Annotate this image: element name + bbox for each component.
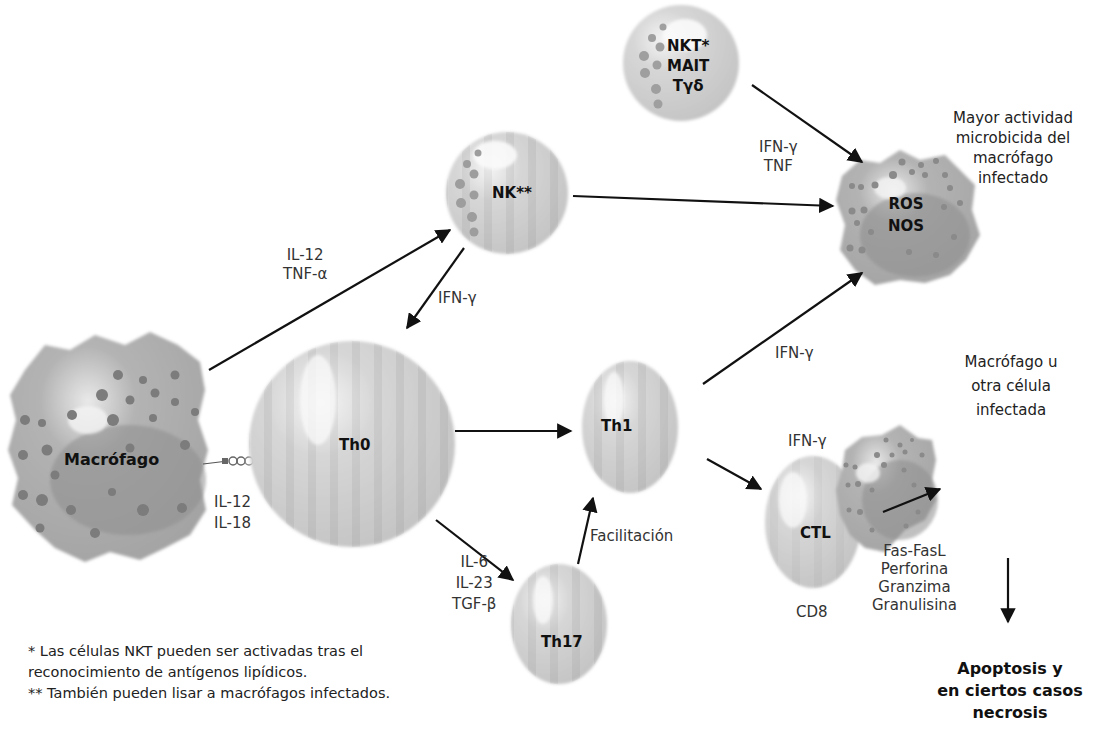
mediator-granzyme: Granzima bbox=[872, 578, 957, 596]
outcome-line: necrosis bbox=[930, 702, 1090, 724]
mediator-perforin: Perforina bbox=[872, 560, 957, 578]
footnote-nk: ** También pueden lisar a macrófagos inf… bbox=[28, 683, 390, 704]
th1-label-text: Th1 bbox=[601, 417, 632, 436]
nk-label: NK** bbox=[492, 184, 532, 203]
th17-cell bbox=[511, 564, 607, 684]
label-facilitation: Facilitación bbox=[590, 527, 673, 546]
outcome-line: otra célula bbox=[946, 374, 1076, 398]
mait-line: MAIT bbox=[667, 56, 709, 76]
outcome-line: Macrófago u bbox=[946, 350, 1076, 374]
footnotes: * Las células NKT pueden ser activadas t… bbox=[28, 641, 390, 704]
nos-line: NOS bbox=[888, 215, 924, 237]
outcome-line: infectada bbox=[946, 398, 1076, 422]
mediator-il6: IL-6 bbox=[452, 552, 496, 573]
synapse-receptor-icon bbox=[203, 457, 253, 465]
macrophage-label-text: Macrófago bbox=[64, 450, 159, 469]
mediators-ctl-to-infected: Fas-FasL Perforina Granzima Granulisina bbox=[872, 542, 957, 614]
mediator-ifn-gamma: IFN-γ bbox=[788, 432, 827, 451]
tgd-line: Tγδ bbox=[667, 76, 709, 96]
ctl-label: CTL bbox=[800, 524, 831, 543]
outcome-line: Apoptosis y bbox=[930, 658, 1090, 680]
ros-line: ROS bbox=[888, 193, 924, 215]
arrow-nk-to-th0 bbox=[407, 248, 464, 328]
mediator-il12: IL-12 bbox=[214, 492, 251, 513]
mediator-ifn-gamma: IFN-γ bbox=[438, 289, 477, 308]
ctl-cd8-label: CD8 bbox=[796, 603, 828, 622]
mediator-il23: IL-23 bbox=[452, 573, 496, 594]
immune-response-diagram: Macrófago Th0 NK** NKT* MAIT Tγδ ROS NOS… bbox=[0, 0, 1093, 730]
ros-nos-label: ROS NOS bbox=[888, 193, 924, 237]
outcome-line: macrófago bbox=[938, 148, 1088, 168]
mediator-ifn-gamma: IFN-γ bbox=[775, 344, 814, 363]
mediators-macrophage-to-nk: IL-12 TNF-α bbox=[283, 246, 327, 284]
macrophage-label: Macrófago bbox=[64, 450, 159, 469]
th0-label: Th0 bbox=[339, 436, 370, 455]
outcome-line: infectado bbox=[938, 168, 1088, 188]
infected-target-cell bbox=[836, 425, 938, 552]
th1-label: Th1 bbox=[601, 417, 632, 436]
mediator-fas-fasl: Fas-FasL bbox=[872, 542, 957, 560]
ctl-label-text: CTL bbox=[800, 524, 831, 543]
mediators-th1-to-macrophage: IFN-γ bbox=[775, 344, 814, 363]
footnote-nkt-continued: reconocimiento de antígenos lipídicos. bbox=[28, 662, 390, 683]
outcome-line: en ciertos casos bbox=[930, 680, 1090, 702]
outcome-line: Mayor actividad bbox=[938, 108, 1088, 128]
mediator-il18: IL-18 bbox=[214, 513, 251, 534]
th17-label-text: Th17 bbox=[541, 633, 583, 652]
outcome-microbicidal-activity: Mayor actividad microbicida del macrófag… bbox=[938, 108, 1088, 188]
facilitation-text: Facilitación bbox=[590, 527, 673, 546]
arrow-th1-to-activated-macrophage bbox=[703, 273, 862, 384]
nkt-mait-tgd-label: NKT* MAIT Tγδ bbox=[667, 36, 709, 96]
cd8-text: CD8 bbox=[796, 603, 828, 622]
mediators-nk-to-th0: IFN-γ bbox=[438, 289, 477, 308]
mediators-nkt-to-macrophage: IFN-γ TNF bbox=[759, 138, 798, 176]
nk-label-text: NK** bbox=[492, 184, 532, 203]
mediator-tnf: TNF bbox=[759, 157, 798, 176]
mediator-granulysin: Granulisina bbox=[872, 596, 957, 614]
ctl-ifn-gamma-label: IFN-γ bbox=[788, 432, 827, 451]
mediator-tnf-alpha: TNF-α bbox=[283, 265, 327, 284]
mediator-il12: IL-12 bbox=[283, 246, 327, 265]
macrophage-cell bbox=[8, 332, 208, 562]
outcome-line: microbicida del bbox=[938, 128, 1088, 148]
arrow-th1-to-ctl bbox=[707, 459, 761, 489]
diagram-canvas bbox=[0, 0, 1093, 730]
footnote-nkt: * Las células NKT pueden ser activadas t… bbox=[28, 641, 390, 662]
th0-label-text: Th0 bbox=[339, 436, 370, 455]
outcome-apoptosis-necrosis: Apoptosis y en ciertos casos necrosis bbox=[930, 658, 1090, 724]
mediator-tgf-beta: TGF-β bbox=[452, 594, 496, 615]
arrow-nk-to-activated-macrophage bbox=[573, 196, 833, 206]
nkt-line: NKT* bbox=[667, 36, 709, 56]
mediator-ifn-gamma: IFN-γ bbox=[759, 138, 798, 157]
mediators-macrophage-to-th0: IL-12 IL-18 bbox=[214, 492, 251, 534]
th17-label: Th17 bbox=[541, 633, 583, 652]
mediators-th0-to-th17: IL-6 IL-23 TGF-β bbox=[452, 552, 496, 615]
outcome-infected-target: Macrófago u otra célula infectada bbox=[946, 350, 1076, 422]
